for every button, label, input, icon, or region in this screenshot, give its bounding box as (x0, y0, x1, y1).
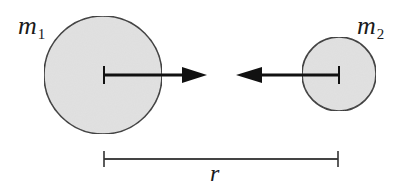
separation-dimension (104, 151, 338, 167)
label-mass-1-subscript: 1 (38, 26, 46, 42)
gravity-diagram (0, 0, 405, 189)
label-mass-1-main: m (18, 11, 37, 40)
body-m2 (236, 37, 376, 111)
label-mass-1: m1 (18, 13, 45, 39)
label-separation-r: r (210, 161, 219, 185)
force-arrow-m2-head-icon (236, 67, 262, 83)
label-mass-2-main: m (357, 11, 376, 40)
label-mass-2-subscript: 2 (377, 26, 385, 42)
body-m1 (44, 16, 207, 134)
force-arrow-m1-head-icon (182, 67, 207, 83)
label-mass-2: m2 (357, 13, 384, 39)
